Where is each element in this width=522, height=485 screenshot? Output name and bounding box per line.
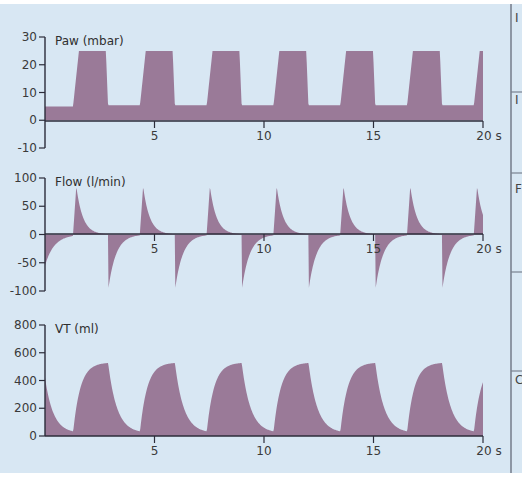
waveform-area — [45, 51, 483, 120]
x-tick-label: 5 — [151, 444, 159, 458]
side-panel-label: F — [515, 182, 522, 196]
y-tick-label: 0 — [29, 113, 37, 127]
y-tick-label: 30 — [22, 30, 37, 44]
chart-title: Flow (l/min) — [55, 175, 126, 189]
pressure-chart: 3020100-105101520 sPaw (mbar) — [17, 30, 501, 155]
y-tick-label: -50 — [17, 256, 37, 270]
y-tick-label: 20 — [22, 58, 37, 72]
x-tick-label: 10 — [256, 444, 271, 458]
x-tick-label: 10 — [256, 129, 271, 143]
x-tick-label: 20 s — [476, 129, 501, 143]
y-tick-label: 400 — [14, 374, 37, 388]
x-tick-label: 5 — [151, 242, 159, 256]
y-tick-label: 50 — [22, 199, 37, 213]
y-tick-label: 600 — [14, 346, 37, 360]
x-tick-label: 5 — [151, 129, 159, 143]
x-tick-label: 20 s — [476, 242, 501, 256]
y-tick-label: -100 — [10, 284, 37, 298]
y-tick-label: 800 — [14, 318, 37, 332]
waveform-area — [45, 363, 483, 436]
y-tick-label: 0 — [29, 228, 37, 242]
y-tick-label: 0 — [29, 429, 37, 443]
x-tick-label: 10 — [256, 242, 271, 256]
ventilator-waveforms: 3020100-105101520 sPaw (mbar) 100500-50-… — [0, 0, 522, 485]
chart-title: VT (ml) — [55, 322, 99, 336]
flow-chart: 100500-50-1005101520 sFlow (l/min) — [10, 171, 502, 298]
y-tick-label: 200 — [14, 401, 37, 415]
y-tick-label: 100 — [14, 171, 37, 185]
side-panel: IIFC — [511, 4, 522, 473]
side-panel-label: I — [515, 93, 519, 107]
x-tick-label: 20 s — [476, 444, 501, 458]
x-tick-label: 15 — [366, 242, 381, 256]
volume-chart: 80060040020005101520 sVT (ml) — [14, 318, 502, 458]
chart-title: Paw (mbar) — [55, 34, 124, 48]
side-panel-label: I — [515, 11, 519, 25]
x-tick-label: 15 — [366, 444, 381, 458]
y-tick-label: 10 — [22, 86, 37, 100]
side-panel-label: C — [515, 373, 522, 387]
x-tick-label: 15 — [366, 129, 381, 143]
y-tick-label: -10 — [17, 141, 37, 155]
